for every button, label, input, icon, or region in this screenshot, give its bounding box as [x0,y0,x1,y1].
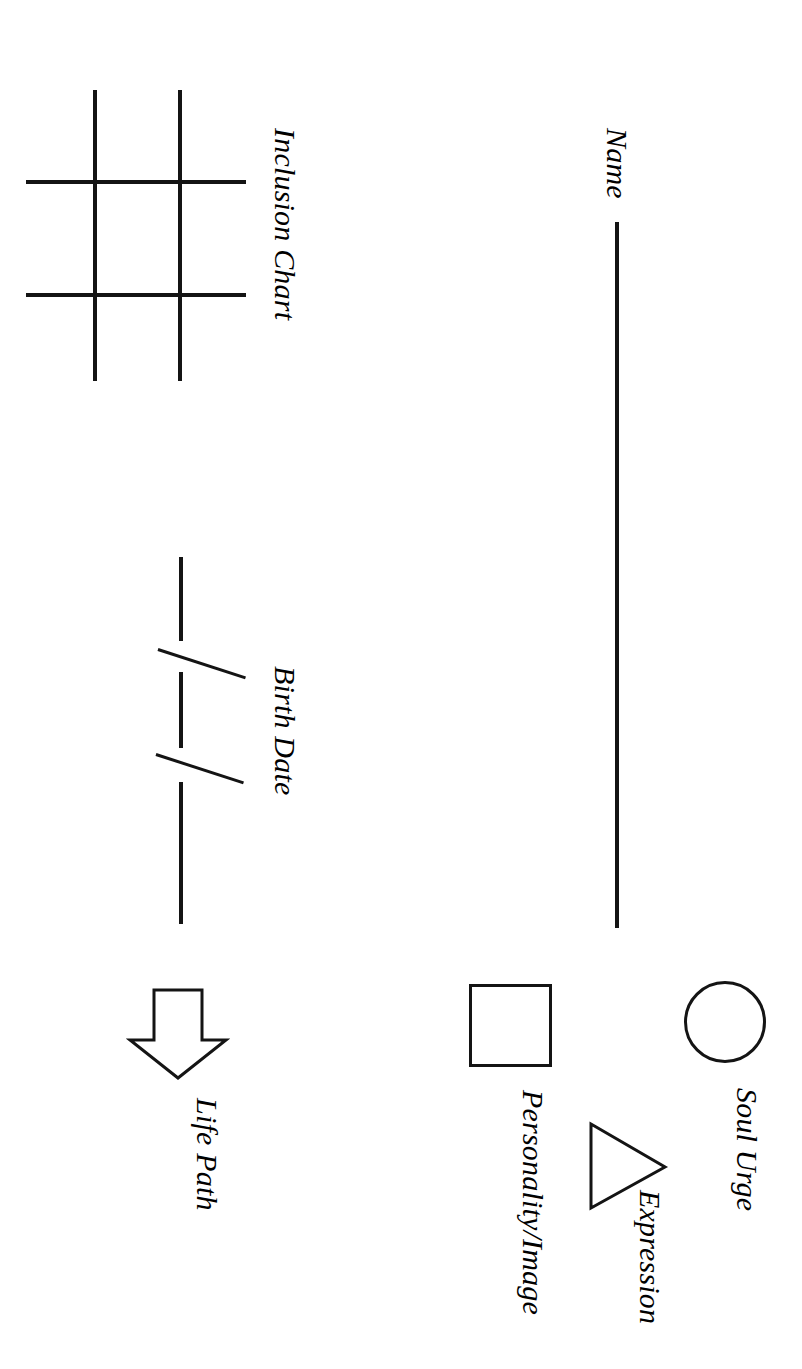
birth-date-separator-2 [156,753,244,784]
name-blank-line[interactable] [615,222,619,928]
birth-date-blank-day[interactable] [179,672,183,748]
soul-urge-label: Soul Urge [732,1088,762,1211]
inclusion-grid-hline-2 [26,293,246,297]
inclusion-chart-grid [0,0,260,400]
circle-icon [684,981,766,1063]
personality-image-label: Personality/Image [518,1090,548,1315]
birth-date-blank-month[interactable] [179,557,183,641]
inclusion-grid-vline-2 [178,90,182,381]
birth-date-separator-1 [158,648,246,679]
birth-date-label: Birth Date [270,666,300,796]
worksheet-page: Inclusion Chart Name Birth Date Life Pat… [0,0,802,1369]
down-arrow-icon [126,986,230,1082]
name-label: Name [602,128,632,199]
expression-label: Expression [635,1190,665,1324]
life-path-label: Life Path [192,1098,222,1211]
inclusion-chart-label: Inclusion Chart [270,128,300,320]
inclusion-grid-hline-1 [26,180,246,184]
square-icon [469,984,552,1067]
inclusion-grid-vline-1 [93,90,97,381]
birth-date-blank-year[interactable] [179,782,183,924]
